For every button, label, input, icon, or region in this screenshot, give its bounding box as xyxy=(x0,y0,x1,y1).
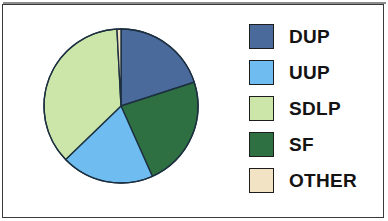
pie-slice-group xyxy=(44,29,198,183)
legend-label-uup: UUP xyxy=(289,63,330,82)
legend-label-other: OTHER xyxy=(289,171,357,190)
legend-swatch-dup xyxy=(249,24,274,49)
legend-swatch-uup xyxy=(249,60,274,85)
legend-swatch-other xyxy=(249,168,274,193)
chart-legend: DUP UUP SDLP SF OTHER xyxy=(249,18,385,206)
legend-label-dup: DUP xyxy=(289,27,330,46)
pie-chart-screenshot: DUP UUP SDLP SF OTHER xyxy=(0,0,388,221)
legend-swatch-sdlp xyxy=(249,96,274,121)
pie-svg xyxy=(40,22,206,192)
legend-item-sdlp[interactable]: SDLP xyxy=(249,90,385,126)
legend-item-uup[interactable]: UUP xyxy=(249,54,385,90)
legend-item-dup[interactable]: DUP xyxy=(249,18,385,54)
legend-label-sf: SF xyxy=(289,135,314,154)
chart-area: DUP UUP SDLP SF OTHER xyxy=(0,0,388,221)
legend-label-sdlp: SDLP xyxy=(289,99,341,118)
legend-swatch-sf xyxy=(249,132,274,157)
legend-item-sf[interactable]: SF xyxy=(249,126,385,162)
pie-chart xyxy=(40,22,206,192)
legend-item-other[interactable]: OTHER xyxy=(249,162,385,198)
